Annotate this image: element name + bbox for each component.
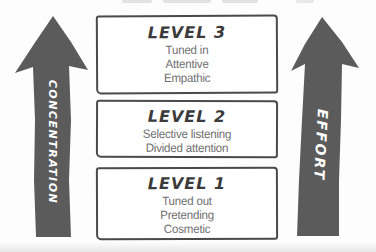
level-3-line: Empathic — [102, 71, 273, 86]
concentration-arrow-label: CONCENTRATION — [44, 77, 60, 207]
level-2-box: LEVEL 2 Selective listening Divided atte… — [96, 100, 278, 159]
listening-levels-diagram: CONCENTRATION EFFORT LEVEL 3 Tuned in At… — [0, 0, 376, 252]
level-2-line: Selective listening — [102, 127, 273, 142]
paper-shading — [0, 242, 376, 252]
level-1-box: LEVEL 1 Tuned out Pretending Cosmetic — [96, 167, 278, 241]
level-3-box: LEVEL 3 Tuned in Attentive Empathic — [96, 15, 278, 95]
level-1-line: Cosmetic — [102, 222, 273, 237]
level-3-line: Tuned in — [102, 43, 273, 58]
level-1-line: Pretending — [102, 208, 273, 223]
level-2-title: LEVEL 2 — [98, 106, 276, 128]
level-1-title: LEVEL 1 — [98, 173, 276, 195]
level-3-line: Attentive — [102, 57, 273, 72]
level-1-line: Tuned out — [102, 194, 273, 209]
level-2-line: Divided attention — [101, 141, 272, 156]
level-3-title: LEVEL 3 — [98, 22, 276, 44]
